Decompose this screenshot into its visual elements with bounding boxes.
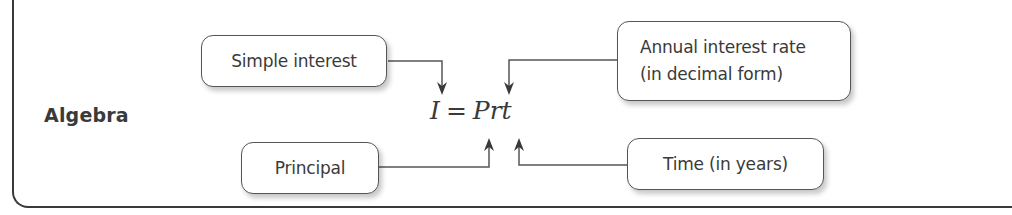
formula-equals: = — [446, 96, 467, 125]
callout-label-line1: Annual interest rate — [640, 34, 806, 61]
callout-simple-interest: Simple interest — [201, 35, 387, 87]
section-frame — [12, 0, 1012, 208]
section-label: Algebra — [44, 104, 129, 126]
callout-time: Time (in years) — [627, 138, 824, 190]
callout-label: Time (in years) — [663, 151, 788, 178]
simple-interest-formula: I=Prt — [430, 96, 512, 125]
callout-annual-interest-rate: Annual interest rate (in decimal form) — [617, 21, 851, 101]
callout-principal: Principal — [241, 142, 379, 194]
callout-label: Simple interest — [231, 48, 357, 75]
formula-rhs: Prt — [473, 96, 512, 125]
callout-label-line2: (in decimal form) — [640, 61, 783, 88]
formula-lhs: I — [430, 96, 440, 125]
callout-label: Principal — [275, 155, 346, 182]
